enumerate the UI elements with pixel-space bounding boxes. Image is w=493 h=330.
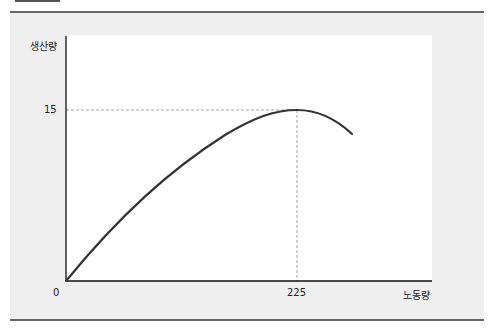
x-tick-0: 0	[53, 287, 59, 298]
chart-svg	[0, 0, 493, 330]
x-tick-225: 225	[287, 287, 306, 298]
production-curve	[66, 110, 352, 281]
x-axis-label: 노동량	[403, 287, 430, 302]
y-axis-label: 생산량	[30, 38, 57, 53]
y-tick-15: 15	[44, 104, 57, 115]
